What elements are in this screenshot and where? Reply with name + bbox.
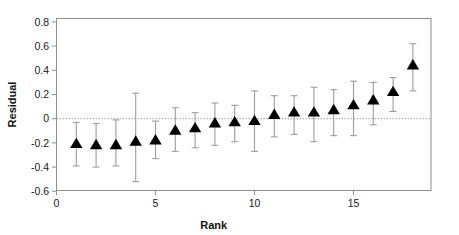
data-point-marker [130, 135, 142, 145]
data-point-marker [248, 115, 260, 125]
data-point-marker [387, 86, 399, 96]
data-point-marker [189, 122, 201, 132]
data-point-group [209, 103, 221, 145]
data-point-group [229, 105, 241, 141]
data-point-marker [288, 106, 300, 116]
y-tick-label: 0.6 [34, 40, 49, 52]
x-tick-label: 5 [153, 197, 159, 209]
y-tick-label: 0.8 [34, 16, 49, 28]
data-point-marker [169, 124, 181, 134]
y-axis-title: Residual [6, 82, 18, 128]
data-point-group [169, 108, 181, 152]
data-point-group [268, 96, 280, 137]
data-point-marker [149, 134, 161, 144]
axis-titles: RankResidual [6, 82, 228, 231]
data-point-group [149, 121, 161, 159]
data-point-group [288, 96, 300, 135]
x-axis-title: Rank [200, 219, 228, 231]
data-point-group [308, 87, 320, 141]
y-tick-label: 0.4 [34, 64, 49, 76]
data-point-group [407, 44, 419, 91]
y-tick-label: 0.2 [34, 88, 49, 100]
data-point-group [328, 90, 340, 136]
y-tick-label: -0.6 [31, 185, 49, 197]
data-point-group [70, 122, 82, 166]
data-point-marker [90, 139, 102, 149]
axis-ticks [52, 22, 354, 195]
x-tick-label: 0 [54, 197, 60, 209]
data-point-marker [308, 106, 320, 116]
data-point-group [387, 78, 399, 112]
data-point-group [347, 81, 359, 135]
y-tick-label: -0.2 [31, 137, 49, 149]
x-tick-label: 10 [249, 197, 261, 209]
x-tick-label: 15 [348, 197, 360, 209]
data-point-marker [70, 138, 82, 148]
data-series [70, 44, 419, 182]
data-point-group [248, 91, 260, 151]
chart-figure: 0.80.60.40.20-0.2-0.4-0.6051015 RankResi… [0, 0, 459, 235]
data-point-group [130, 93, 142, 181]
data-point-marker [347, 99, 359, 109]
data-point-marker [110, 139, 122, 149]
data-point-marker [367, 94, 379, 104]
data-point-group [90, 124, 102, 168]
data-point-marker [407, 59, 419, 69]
residual-rank-plot: 0.80.60.40.20-0.2-0.4-0.6051015 RankResi… [0, 0, 459, 235]
data-point-group [189, 113, 201, 148]
data-point-group [110, 120, 122, 166]
y-tick-label: -0.4 [31, 161, 49, 173]
y-tick-label: 0 [43, 112, 49, 124]
data-point-marker [268, 109, 280, 119]
data-point-marker [328, 104, 340, 114]
data-point-marker [229, 116, 241, 126]
